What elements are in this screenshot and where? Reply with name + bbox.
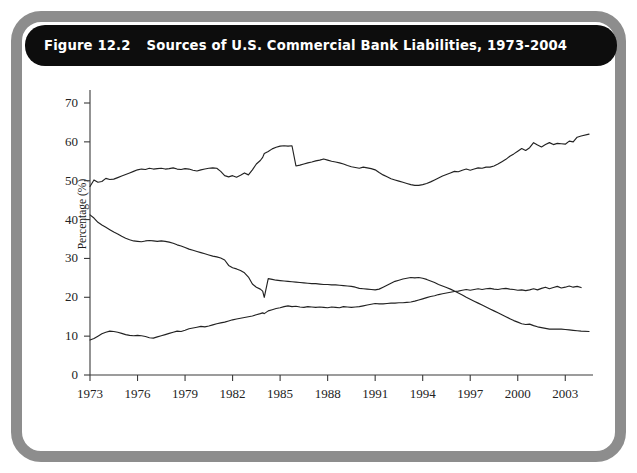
figure-title: Sources of U.S. Commercial Bank Liabilit… xyxy=(147,38,568,53)
figure-title-bar: Figure 12.2 Sources of U.S. Commercial B… xyxy=(25,25,617,66)
figure-container: Figure 12.2 Sources of U.S. Commercial B… xyxy=(0,0,637,473)
series-line-borrowing xyxy=(90,286,581,340)
series-line-transactions-dep xyxy=(90,215,589,332)
series-line-nontransactions-dep xyxy=(90,134,589,186)
figure-number: Figure 12.2 xyxy=(44,38,131,53)
line-chart-plot xyxy=(28,80,608,442)
chart-panel: Percentage (%) 010203040506070 197319761… xyxy=(28,80,608,442)
